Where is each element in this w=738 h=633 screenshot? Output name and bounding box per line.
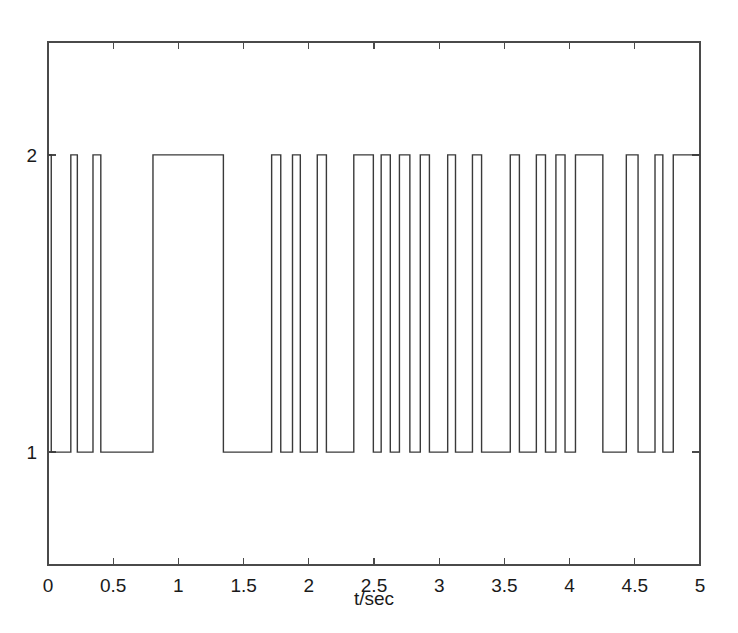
y-tick-label: 2 (26, 145, 37, 166)
figure-canvas: 00.511.522.533.544.55 12 t/sec (0, 0, 738, 633)
x-tick-label: 0.5 (100, 575, 126, 596)
x-axis-title: t/sec (354, 588, 394, 609)
x-tick-label: 0 (43, 575, 54, 596)
x-tick-label: 1 (173, 575, 184, 596)
x-tick-label: 4.5 (622, 575, 648, 596)
x-tick-label: 2 (304, 575, 315, 596)
x-tick-label: 4 (564, 575, 575, 596)
x-tick-label: 1.5 (230, 575, 256, 596)
y-tick-label: 1 (26, 442, 37, 463)
x-tick-label: 3.5 (491, 575, 517, 596)
x-tick-label: 3 (434, 575, 445, 596)
x-tick-label: 5 (695, 575, 706, 596)
binary-signal-chart: 00.511.522.533.544.55 12 t/sec (0, 0, 738, 633)
figure-background (0, 0, 738, 633)
